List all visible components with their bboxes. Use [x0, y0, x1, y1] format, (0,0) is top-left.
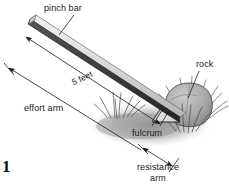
label-effort-arm: effort arm	[24, 103, 63, 113]
label-fulcrum: fulcrum	[132, 128, 162, 138]
leader-pinch-bar	[59, 15, 74, 35]
resistance-arm-line-1: resistance	[137, 162, 179, 172]
label-rock: rock	[196, 59, 213, 69]
resistance-arm-line-2: arm	[150, 173, 166, 183]
lever-diagram-figure: pinch bar rock effort arm 5 feet fulcrum…	[0, 0, 229, 188]
diagram-canvas	[0, 0, 229, 188]
folio-number: 1	[2, 157, 11, 177]
label-resistance-arm: resistancearm	[133, 162, 183, 183]
label-pinch-bar: pinch bar	[44, 3, 82, 13]
